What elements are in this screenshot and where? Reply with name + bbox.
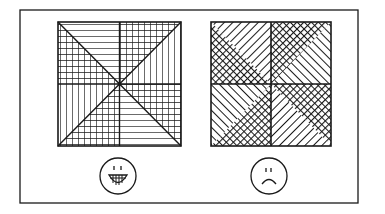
right-hatched-square <box>211 22 331 146</box>
frowning-face-icon <box>251 158 287 194</box>
figure-canvas <box>0 0 385 214</box>
smiling-face-icon <box>100 158 136 194</box>
left-hatched-square <box>58 22 181 146</box>
